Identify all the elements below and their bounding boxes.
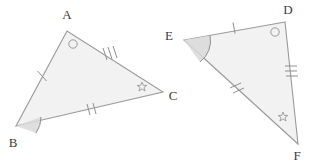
figure-canvas: A B C xyxy=(0,0,315,166)
vertex-label-c: C xyxy=(169,88,178,103)
vertex-label-f: F xyxy=(293,148,300,163)
vertex-label-a: A xyxy=(62,7,72,22)
triangle-abc: A B C xyxy=(9,7,178,150)
vertex-label-b: B xyxy=(9,135,18,150)
triangle-def: D E F xyxy=(165,2,301,163)
geometry-figure: A B C xyxy=(0,0,315,166)
vertex-label-e: E xyxy=(165,28,173,43)
vertex-label-d: D xyxy=(283,2,292,17)
